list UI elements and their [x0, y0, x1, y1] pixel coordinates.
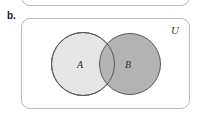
universal-set-label: U: [171, 24, 179, 37]
set-a-label: A: [77, 59, 83, 70]
venn-circles-svg: [0, 0, 200, 116]
set-b-label: B: [125, 59, 131, 70]
venn-diagram-figure: b. A B U: [0, 0, 200, 116]
